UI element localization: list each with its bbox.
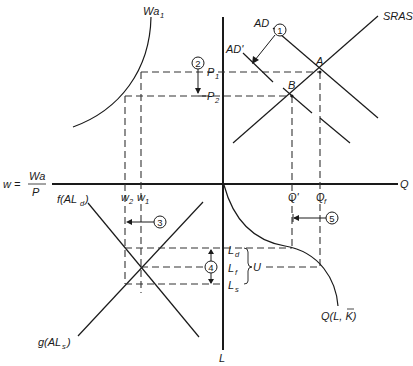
svg-text:2: 2: [214, 96, 220, 105]
production-function-label: Q(L, K): [321, 309, 357, 322]
step-2-marker: 2: [192, 57, 206, 96]
step-5-marker: 5: [293, 212, 338, 224]
svg-text:1: 1: [277, 25, 282, 36]
svg-text:2: 2: [128, 197, 134, 206]
qf-label: Q f: [316, 191, 327, 206]
unemployment-label: U: [253, 261, 261, 273]
lf-label: L f: [228, 262, 238, 277]
labor-supply-label: g(AL s ): [38, 336, 71, 351]
svg-text:4: 4: [208, 262, 213, 273]
svg-text:f: f: [235, 268, 238, 277]
point-b-label: B: [288, 79, 295, 91]
point-a-label: A: [315, 55, 323, 67]
point-a: [319, 71, 322, 74]
ld-label: L d: [228, 244, 240, 259]
ad-as-labor-market-diagram: Q L w = Wa P Wa 1 P 1 P 2 2 SRAS AD: [0, 0, 413, 366]
q-prime-label: Q': [288, 191, 300, 203]
svg-text:3: 3: [157, 217, 162, 228]
labor-demand-curve: [88, 203, 199, 337]
wa1-label: Wa 1: [143, 5, 164, 20]
wage-axis-label: w = Wa P: [3, 170, 46, 198]
unemployment-brace: [244, 248, 252, 284]
ad-prime-label: AD': [225, 43, 244, 55]
p2-label: P 2: [207, 90, 220, 105]
labor-demand-label: f(AL d ): [57, 193, 89, 208]
svg-text:Q(L, K): Q(L, K): [321, 310, 357, 322]
svg-text:L: L: [228, 279, 234, 291]
step-1-marker: 1: [252, 24, 286, 64]
w1-label: w 1: [137, 191, 149, 206]
l-axis-label: L: [219, 352, 225, 364]
point-b: [291, 95, 294, 98]
svg-text:1: 1: [160, 11, 164, 20]
svg-text:): ): [65, 336, 71, 348]
svg-text:1: 1: [145, 197, 149, 206]
svg-text:w =: w =: [3, 178, 21, 190]
wa1-curve: [73, 17, 151, 127]
step-4-marker: 4: [205, 249, 217, 284]
production-function-curve: [224, 185, 338, 306]
ad-curve: [273, 28, 378, 118]
svg-text:f: f: [324, 197, 327, 206]
svg-text:Wa: Wa: [143, 5, 159, 17]
svg-text:L: L: [228, 262, 234, 274]
svg-text:Wa: Wa: [29, 170, 45, 182]
sras-label: SRAS: [383, 10, 413, 22]
svg-text:P: P: [207, 90, 215, 102]
w2-label: w 2: [121, 191, 134, 206]
svg-text:5: 5: [329, 213, 334, 224]
svg-text:f(AL: f(AL: [57, 193, 77, 205]
svg-text:d: d: [235, 250, 240, 259]
svg-text:s: s: [235, 285, 239, 294]
ls-label: L s: [228, 279, 239, 294]
svg-text:L: L: [228, 244, 234, 256]
svg-text:P: P: [32, 186, 40, 198]
svg-text:2: 2: [195, 58, 200, 69]
ad-prime-curve: [243, 53, 350, 143]
q-axis-label: Q: [400, 178, 409, 190]
svg-text:P: P: [207, 66, 215, 78]
svg-text:g(AL: g(AL: [38, 336, 61, 348]
p1-label: P 1: [207, 66, 219, 81]
sras-curve: [233, 16, 378, 143]
svg-text:s: s: [62, 342, 66, 351]
svg-text:1: 1: [215, 72, 219, 81]
step-3-marker: 3: [126, 216, 166, 228]
ad-label: AD: [253, 17, 269, 29]
